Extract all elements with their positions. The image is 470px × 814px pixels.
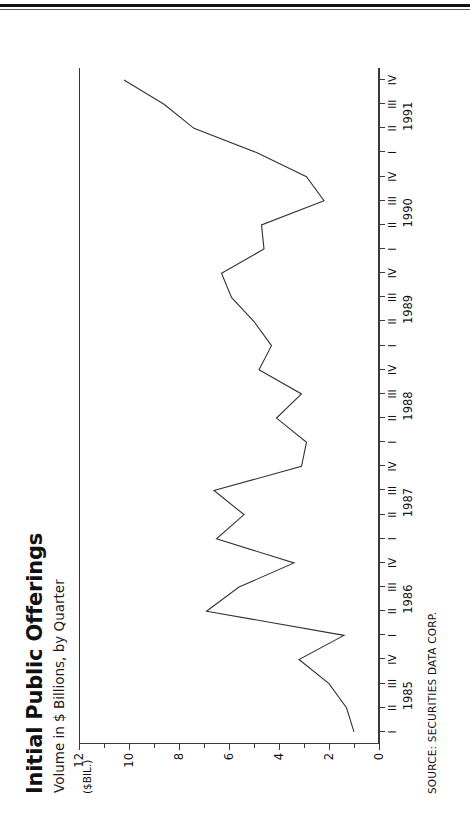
x-axis-tick [379, 103, 385, 104]
x-axis-tick [379, 683, 385, 684]
x-axis-quarter-label: I [386, 344, 398, 347]
source-note: SOURCE: SECURITIES DATA CORP. [426, 612, 438, 794]
x-axis-quarter-label: II [386, 608, 398, 614]
x-axis-quarter-label: II [386, 222, 398, 228]
y-axis-tick-major [179, 744, 180, 750]
x-axis-tick [379, 152, 385, 153]
page-top-rule-thin [0, 9, 470, 10]
y-axis-tick-label: 4 [272, 753, 286, 760]
y-axis-tick-minor [204, 744, 205, 748]
rotated-figure-wrapper: Initial Public Offerings Volume in $ Bil… [15, 12, 455, 802]
x-axis-quarter-label: III [386, 486, 398, 495]
x-axis-quarter-label: II [386, 512, 398, 518]
page-top-rule-thick [0, 4, 470, 7]
x-axis-quarter-label: III [386, 100, 398, 109]
x-axis-year-label: 1986 [401, 585, 415, 614]
y-axis-tick-minor [304, 744, 305, 748]
y-axis-tick-label: 12 [72, 753, 86, 768]
data-line-series [79, 68, 379, 744]
x-axis-year-label: 1988 [401, 391, 415, 420]
x-axis-tick [379, 634, 385, 635]
x-axis-quarter-label: I [386, 151, 398, 154]
x-axis-tick [379, 321, 385, 322]
x-axis-tick [379, 538, 385, 539]
x-axis-tick [379, 272, 385, 273]
y-axis-tick-label: 6 [222, 753, 236, 760]
x-axis-year-label: 1991 [401, 102, 415, 131]
y-axis-tick-minor [254, 744, 255, 748]
x-axis-tick [379, 441, 385, 442]
x-axis-year-label: 1985 [401, 681, 415, 710]
x-axis-quarter-label: I [386, 441, 398, 444]
y-axis-tick-major [129, 744, 130, 750]
y-axis-tick-major [329, 744, 330, 750]
plot-area: 024681012 IIIIIIIVIIIIIIIVIIIIIIIVIIIIII… [79, 68, 379, 744]
x-axis-tick [379, 369, 385, 370]
x-axis-tick [379, 200, 385, 201]
x-axis-tick [379, 465, 385, 466]
chart-figure: Initial Public Offerings Volume in $ Bil… [15, 12, 455, 802]
chart-subtitle: Volume in $ Billions, by Quarter [51, 579, 67, 793]
x-axis-year-label: 1990 [401, 198, 415, 227]
x-axis-tick [379, 610, 385, 611]
x-axis-tick [379, 731, 385, 732]
y-axis-tick-minor [154, 744, 155, 748]
x-axis-quarter-label: IV [386, 172, 398, 182]
x-axis-tick [379, 659, 385, 660]
x-axis-quarter-label: II [386, 318, 398, 324]
x-axis-tick [379, 248, 385, 249]
y-axis-tick-label: 8 [172, 753, 186, 760]
x-axis-tick [379, 176, 385, 177]
x-axis-tick [379, 296, 385, 297]
y-axis-tick-label: 2 [322, 753, 336, 760]
x-axis-tick [379, 393, 385, 394]
x-axis-quarter-label: III [386, 196, 398, 205]
x-axis-tick [379, 586, 385, 587]
x-axis-tick [379, 127, 385, 128]
chart-title: Initial Public Offerings [23, 533, 47, 794]
x-axis-quarter-label: IV [386, 268, 398, 278]
y-axis-tick-major [229, 744, 230, 750]
x-axis-tick [379, 345, 385, 346]
x-axis-tick [379, 707, 385, 708]
x-axis-quarter-label: I [386, 248, 398, 251]
x-axis-quarter-label: III [386, 293, 398, 302]
x-axis-quarter-label: IV [386, 654, 398, 664]
x-axis-quarter-label: IV [386, 461, 398, 471]
y-axis-tick-minor [354, 744, 355, 748]
y-axis-tick-minor [104, 744, 105, 748]
x-axis-quarter-label: IV [386, 365, 398, 375]
page-canvas: Initial Public Offerings Volume in $ Bil… [0, 0, 470, 814]
x-axis-year-label: 1987 [401, 488, 415, 517]
x-axis-tick [379, 562, 385, 563]
x-axis-quarter-label: III [386, 389, 398, 398]
x-axis-quarter-label: IV [386, 75, 398, 85]
x-axis-tick [379, 224, 385, 225]
x-axis-quarter-label: I [386, 730, 398, 733]
x-axis-tick [379, 514, 385, 515]
x-axis-tick [379, 79, 385, 80]
x-axis-year-label: 1989 [401, 295, 415, 324]
y-axis-tick-label: 10 [122, 753, 136, 768]
x-axis-quarter-label: II [386, 705, 398, 711]
x-axis-quarter-label: II [386, 415, 398, 421]
x-axis-line [379, 68, 380, 744]
x-axis-tick [379, 490, 385, 491]
y-axis-tick-major [279, 744, 280, 750]
x-axis-tick [379, 417, 385, 418]
x-axis-quarter-label: IV [386, 558, 398, 568]
x-axis-quarter-label: I [386, 634, 398, 637]
x-axis-quarter-label: III [386, 582, 398, 591]
y-axis-tick-major [79, 744, 80, 750]
x-axis-quarter-label: I [386, 537, 398, 540]
y-axis-tick-label: 0 [372, 753, 386, 760]
y-axis-tick-major [379, 744, 380, 750]
x-axis-quarter-label: II [386, 125, 398, 131]
x-axis-quarter-label: III [386, 679, 398, 688]
